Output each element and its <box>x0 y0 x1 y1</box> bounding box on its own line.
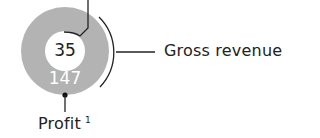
profit-label-text: Profit <box>38 114 81 133</box>
ring-value: 147 <box>42 68 88 88</box>
profit-footnote: 1 <box>85 115 91 125</box>
gross-revenue-label: Gross revenue <box>164 41 282 60</box>
profit-label: Profit1 <box>38 114 91 133</box>
inner-value: 35 <box>45 40 85 60</box>
